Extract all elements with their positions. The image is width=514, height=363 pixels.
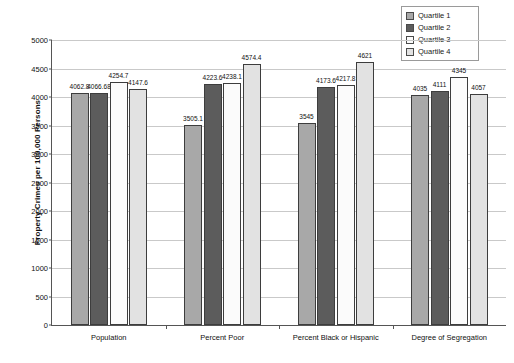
bar-group: 3505.14223.64238.14574.4 [166, 40, 280, 325]
bar-slot: 4066.68 [90, 40, 108, 325]
bar[interactable] [470, 94, 488, 325]
bar[interactable] [431, 91, 449, 325]
legend-swatch-icon [406, 24, 414, 32]
x-axis-category-label: Population [91, 333, 126, 342]
bar-slot: 4111 [431, 40, 449, 325]
bar-chart: Quartile 1Quartile 2Quartile 3Quartile 4… [0, 0, 514, 363]
x-axis-tick-mark [166, 325, 167, 329]
bar-slot: 4217.8 [337, 40, 355, 325]
y-axis-tick-label: 2500 [31, 178, 48, 187]
bar-value-label: 4574.4 [242, 54, 262, 62]
bar-slot: 3545 [298, 40, 316, 325]
bar-group: 4035411143454057 [393, 40, 507, 325]
bar-slot: 4223.6 [204, 40, 222, 325]
bar-value-label: 4254.7 [109, 72, 129, 80]
bar[interactable] [337, 85, 355, 325]
bar-value-label: 3545 [299, 113, 313, 121]
bar[interactable] [184, 125, 202, 325]
bar-value-label: 4066.68 [87, 83, 111, 91]
bar[interactable] [204, 84, 222, 325]
y-axis-tick-label: 3000 [31, 150, 48, 159]
bar-slot: 4621 [356, 40, 374, 325]
bar[interactable] [90, 93, 108, 325]
bar-value-label: 4621 [358, 52, 372, 60]
legend-item-label: Quartile 1 [418, 11, 451, 20]
bar[interactable] [298, 123, 316, 325]
y-axis-tick-label: 4000 [31, 93, 48, 102]
y-axis-tick-label: 1500 [31, 235, 48, 244]
bar-slot: 4062.8 [71, 40, 89, 325]
legend-swatch-icon [406, 12, 414, 20]
bar-value-label: 4057 [471, 84, 485, 92]
bar-value-label: 3505.1 [183, 115, 203, 123]
bar-group: 35454173.64217.84621 [279, 40, 393, 325]
bar-slot: 4173.6 [317, 40, 335, 325]
plot-area: 0500100015002000250030003500400045005000… [51, 40, 506, 326]
y-axis-tick-label: 5000 [31, 36, 48, 45]
legend-item-label: Quartile 2 [418, 23, 451, 32]
legend-item[interactable]: Quartile 1 [406, 10, 474, 21]
bar[interactable] [71, 93, 89, 325]
bar-value-label: 4147.6 [128, 79, 148, 87]
x-axis-category-label: Percent Poor [200, 333, 244, 342]
bar-value-label: 4111 [433, 81, 447, 89]
y-axis-tick-label: 2000 [31, 207, 48, 216]
x-axis-category-label: Percent Black or Hispanic [293, 333, 379, 342]
bar-slot: 4574.4 [243, 40, 261, 325]
bar-group: 4062.84066.684254.74147.6 [52, 40, 166, 325]
bar-slot: 4035 [411, 40, 429, 325]
y-axis-tick-label: 4500 [31, 64, 48, 73]
bar-value-label: 4173.6 [316, 77, 336, 85]
x-axis-tick-mark [279, 325, 280, 329]
bar-slot: 4238.1 [223, 40, 241, 325]
bar-value-label: 4035 [413, 85, 427, 93]
bar-slot: 3505.1 [184, 40, 202, 325]
bar[interactable] [129, 89, 147, 325]
y-axis-tick-label: 500 [35, 292, 48, 301]
bar[interactable] [110, 82, 128, 325]
bar-slot: 4147.6 [129, 40, 147, 325]
x-axis-category-label: Degree of Segregation [412, 333, 487, 342]
bar-value-label: 4223.6 [203, 74, 223, 82]
bar[interactable] [243, 64, 261, 325]
x-axis-tick-mark [393, 325, 394, 329]
bar[interactable] [317, 87, 335, 325]
y-axis-tick-label: 3500 [31, 121, 48, 130]
bar[interactable] [223, 83, 241, 325]
y-axis-tick-label: 1000 [31, 264, 48, 273]
bar-value-label: 4238.1 [222, 73, 242, 81]
bar-value-label: 4217.8 [336, 75, 356, 83]
legend-item[interactable]: Quartile 2 [406, 22, 474, 33]
bar[interactable] [356, 62, 374, 325]
bar-slot: 4057 [470, 40, 488, 325]
y-axis-tick-label: 0 [44, 321, 48, 330]
bar[interactable] [411, 95, 429, 325]
bar[interactable] [450, 77, 468, 325]
bar-slot: 4345 [450, 40, 468, 325]
bar-slot: 4254.7 [110, 40, 128, 325]
bar-value-label: 4345 [452, 67, 466, 75]
